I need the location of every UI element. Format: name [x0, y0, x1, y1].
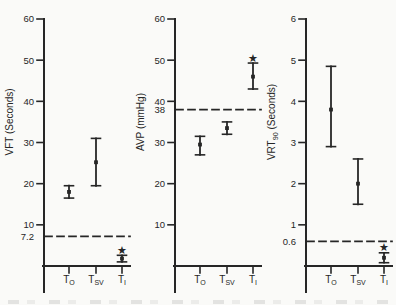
data-point-marker: [329, 108, 333, 112]
y-tick-label: 6: [291, 13, 296, 24]
x-category-label: TO: [63, 274, 75, 286]
y-axis-title: VRT90 (Seconds): [266, 84, 280, 160]
y-tick-label: 2: [291, 178, 296, 189]
x-category-label: TI: [118, 274, 126, 286]
y-tick-label: 60: [23, 13, 34, 24]
panel-3: 6543210.6TOTSVTI★VRT90 (Seconds): [266, 13, 392, 292]
y-tick-label: 10: [23, 219, 34, 230]
y-tick-label: 20: [23, 178, 34, 189]
y-tick-label: 50: [154, 55, 165, 66]
y-axis-title: AVP (mmHg): [135, 93, 146, 151]
x-category-label: TSV: [219, 274, 235, 286]
x-category-label: TO: [325, 274, 337, 286]
x-category-label: TI: [380, 274, 388, 286]
data-point-marker: [94, 160, 98, 164]
data-point-marker: [225, 126, 229, 130]
data-point-marker: [120, 257, 124, 261]
data-point-marker: [198, 143, 202, 147]
reference-line-label: 38: [154, 104, 165, 115]
x-category-label: TI: [249, 274, 257, 286]
panel-2: 60504030201038TOTSVTI★AVP (mmHg): [135, 13, 261, 292]
significance-star-icon: ★: [379, 241, 389, 253]
y-tick-label: 60: [154, 13, 165, 24]
reference-line-label: 7.2: [21, 231, 34, 242]
figure: 6050403020107.2TOTSVTI★VFT (Seconds)6050…: [0, 0, 396, 305]
y-tick-label: 4: [291, 96, 296, 107]
x-category-label: TSV: [350, 274, 366, 286]
panel-1: 6050403020107.2TOTSVTI★VFT (Seconds): [4, 13, 130, 292]
y-tick-label: 1: [291, 219, 296, 230]
y-tick-label: 30: [154, 137, 165, 148]
y-tick-label: 5: [291, 55, 296, 66]
y-tick-label: 3: [291, 137, 296, 148]
data-point-marker: [356, 182, 360, 186]
data-point-marker: [251, 75, 255, 79]
y-tick-label: 40: [23, 96, 34, 107]
y-tick-label: 30: [23, 137, 34, 148]
x-category-label: TSV: [88, 274, 104, 286]
y-axis-title: VFT (Seconds): [4, 88, 15, 155]
y-tick-label: 20: [154, 178, 165, 189]
data-point-marker: [67, 190, 71, 194]
reference-line-label: 0.6: [283, 236, 296, 247]
y-tick-label: 50: [23, 55, 34, 66]
x-category-label: TO: [194, 274, 206, 286]
significance-star-icon: ★: [117, 244, 127, 256]
significance-star-icon: ★: [248, 52, 258, 64]
data-point-marker: [382, 256, 386, 260]
three-panel-errorbar-chart: 6050403020107.2TOTSVTI★VFT (Seconds)6050…: [0, 0, 396, 305]
y-tick-label: 10: [154, 219, 165, 230]
